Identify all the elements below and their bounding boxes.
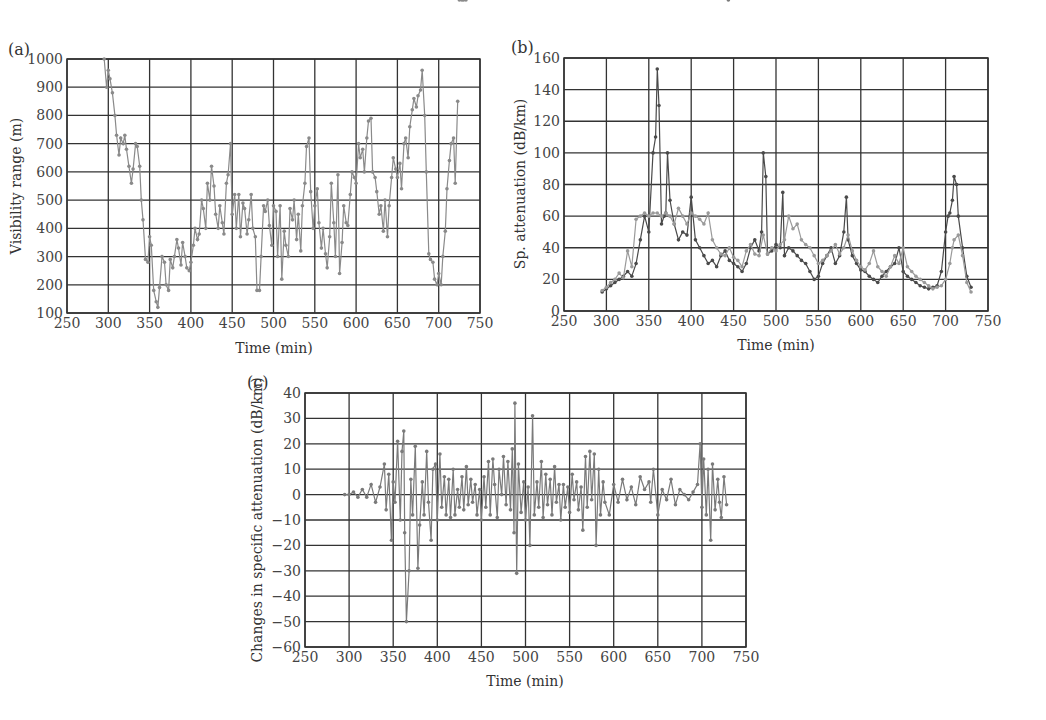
svg-text:−10: −10: [271, 512, 301, 528]
svg-text:20: 20: [283, 436, 301, 452]
svg-text:300: 300: [336, 649, 363, 665]
svg-text:450: 450: [219, 315, 246, 331]
svg-text:600: 600: [36, 164, 63, 180]
svg-text:−60: −60: [271, 639, 301, 655]
x-axis-label-a: Time (min): [235, 340, 313, 356]
y-axis-label-b: Sp. attenuation (dB/km): [512, 99, 528, 269]
svg-text:700: 700: [36, 136, 63, 152]
svg-text:300: 300: [36, 249, 63, 265]
svg-text:800: 800: [36, 107, 63, 123]
svg-text:500: 500: [512, 649, 539, 665]
svg-text:400: 400: [36, 220, 63, 236]
svg-text:60: 60: [542, 208, 560, 224]
svg-text:−20: −20: [271, 537, 301, 553]
svg-text:0: 0: [551, 303, 560, 319]
svg-text:350: 350: [380, 649, 407, 665]
y-axis-label-c: Changes in specific attenuation (dB/km): [249, 377, 265, 662]
svg-text:600: 600: [600, 649, 627, 665]
figure: 2503003504004505005506006507007501002003…: [0, 0, 1046, 720]
svg-text:140: 140: [533, 82, 560, 98]
svg-text:450: 450: [720, 313, 747, 329]
y-tick-labels: −60−50−40−30−20−10010203040: [271, 385, 301, 655]
svg-text:0: 0: [292, 487, 301, 503]
chart-visibility-range: 2503003504004505005506006507007501002003…: [27, 0, 493, 331]
svg-text:350: 350: [635, 313, 662, 329]
svg-text:550: 550: [301, 315, 328, 331]
x-tick-labels: 250300350400450500550600650700750: [54, 315, 494, 331]
svg-text:600: 600: [343, 315, 370, 331]
y-tick-labels: 020406080100120140160: [533, 50, 560, 319]
x-tick-labels: 250300350400450500550600650700750: [551, 313, 1002, 329]
svg-text:650: 650: [384, 315, 411, 331]
y-tick-labels: 1002003004005006007008009001000: [27, 51, 63, 321]
svg-text:700: 700: [932, 313, 959, 329]
svg-text:100: 100: [533, 145, 560, 161]
svg-text:750: 750: [733, 649, 760, 665]
data-series: [600, 67, 972, 294]
svg-text:500: 500: [260, 315, 287, 331]
x-axis-label-b: Time (min): [737, 337, 815, 353]
x-axis-label-c: Time (min): [486, 673, 564, 689]
svg-text:200: 200: [36, 277, 63, 293]
svg-text:900: 900: [36, 79, 63, 95]
svg-text:−50: −50: [271, 614, 301, 630]
svg-text:400: 400: [678, 313, 705, 329]
svg-text:350: 350: [136, 315, 163, 331]
svg-text:40: 40: [542, 240, 560, 256]
svg-text:160: 160: [533, 50, 560, 66]
svg-text:750: 750: [467, 315, 494, 331]
panel-label-b: (b): [511, 38, 534, 57]
chart-sp-attenuation: 2503003504004505005506006507007500204060…: [533, 50, 1001, 329]
y-axis-label-a: Visibility range (m): [8, 118, 24, 255]
svg-text:400: 400: [424, 649, 451, 665]
svg-text:100: 100: [36, 305, 63, 321]
svg-text:1000: 1000: [27, 51, 63, 67]
data-series: [600, 206, 972, 293]
svg-text:400: 400: [178, 315, 205, 331]
svg-text:120: 120: [533, 113, 560, 129]
svg-text:80: 80: [542, 177, 560, 193]
svg-text:30: 30: [283, 410, 301, 426]
svg-text:650: 650: [890, 313, 917, 329]
svg-text:450: 450: [468, 649, 495, 665]
svg-text:300: 300: [593, 313, 620, 329]
svg-text:500: 500: [763, 313, 790, 329]
svg-text:−40: −40: [271, 588, 301, 604]
svg-text:500: 500: [36, 192, 63, 208]
svg-text:40: 40: [283, 385, 301, 401]
svg-text:700: 700: [689, 649, 716, 665]
x-tick-labels: 250300350400450500550600650700750: [292, 649, 760, 665]
svg-text:300: 300: [95, 315, 122, 331]
svg-text:−30: −30: [271, 563, 301, 579]
svg-text:10: 10: [283, 461, 301, 477]
svg-text:550: 550: [805, 313, 832, 329]
svg-text:700: 700: [425, 315, 452, 331]
svg-text:650: 650: [644, 649, 671, 665]
svg-text:20: 20: [542, 271, 560, 287]
svg-text:750: 750: [975, 313, 1002, 329]
panel-label-a: (a): [8, 40, 30, 59]
data-series: [102, 0, 467, 309]
svg-text:600: 600: [847, 313, 874, 329]
svg-text:550: 550: [556, 649, 583, 665]
